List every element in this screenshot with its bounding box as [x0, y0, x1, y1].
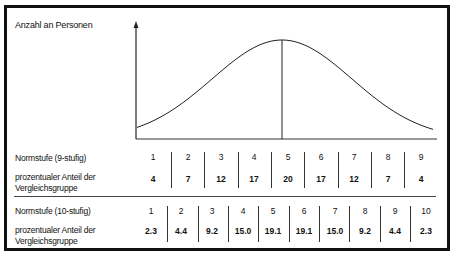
- stanine-level-1: 1: [138, 152, 168, 162]
- sten-column-separator: [410, 206, 411, 242]
- stanine-column-separator: [171, 152, 172, 188]
- sten-column-separator: [349, 206, 350, 242]
- sten-percent-7: 15.0: [320, 226, 350, 236]
- stanine-percent-3: 12: [206, 174, 236, 184]
- stanine-percent-8: 7: [373, 174, 403, 184]
- sten-row-label: Normstufe (10-stufig): [15, 206, 91, 217]
- sten-level-8: 8: [350, 206, 380, 216]
- stanine-level-9: 9: [406, 152, 436, 162]
- stanine-column-separator: [204, 152, 205, 188]
- sten-column-separator: [319, 206, 320, 242]
- sten-level-6: 6: [289, 206, 319, 216]
- stanine-percent-label-line1: prozentualer Anteil der: [15, 172, 95, 183]
- stanine-level-8: 8: [373, 152, 403, 162]
- sten-percent-9: 4.4: [380, 226, 410, 236]
- sten-level-4: 4: [228, 206, 258, 216]
- stanine-column-separator: [404, 152, 405, 188]
- sten-level-3: 3: [197, 206, 227, 216]
- stanine-level-6: 6: [306, 152, 336, 162]
- stanine-level-7: 7: [339, 152, 369, 162]
- sten-percent-label-line2: Vergleichsgruppe: [15, 236, 95, 247]
- stanine-percent-5: 20: [273, 174, 303, 184]
- sten-column-separator: [380, 206, 381, 242]
- sten-percent-8: 9.2: [350, 226, 380, 236]
- stanine-column-separator: [238, 152, 239, 188]
- stanine-column-separator: [304, 152, 305, 188]
- sten-column-separator: [167, 206, 168, 242]
- sten-level-2: 2: [166, 206, 196, 216]
- sten-percent-1: 2.3: [136, 226, 166, 236]
- normal-curve: [137, 40, 433, 129]
- figure-caption-cutoff: [10, 250, 210, 260]
- normal-distribution-chart: [0, 0, 453, 263]
- stanine-column-separator: [271, 152, 272, 188]
- stanine-level-5: 5: [273, 152, 303, 162]
- stanine-level-3: 3: [206, 152, 236, 162]
- sten-percent-label-line1: prozentualer Anteil der: [15, 225, 95, 236]
- sten-level-1: 1: [136, 206, 166, 216]
- stanine-percent-label: prozentualer Anteil der Vergleichsgruppe: [15, 172, 95, 194]
- stanine-column-separator: [371, 152, 372, 188]
- table-divider: [14, 196, 436, 197]
- sten-level-10: 10: [411, 206, 441, 216]
- sten-column-separator: [258, 206, 259, 242]
- sten-percent-4: 15.0: [228, 226, 258, 236]
- sten-percent-2: 4.4: [166, 226, 196, 236]
- sten-percent-6: 19.1: [289, 226, 319, 236]
- sten-level-7: 7: [320, 206, 350, 216]
- stanine-percent-4: 17: [239, 174, 269, 184]
- sten-column-separator: [228, 206, 229, 242]
- stanine-level-2: 2: [173, 152, 203, 162]
- stanine-percent-1: 4: [138, 174, 168, 184]
- y-axis-label: Anzahl an Personen: [15, 20, 92, 30]
- stanine-percent-2: 7: [173, 174, 203, 184]
- stanine-percent-label-line2: Vergleichsgruppe: [15, 183, 95, 194]
- stanine-column-separator: [338, 152, 339, 188]
- sten-level-5: 5: [258, 206, 288, 216]
- stanine-percent-9: 4: [406, 174, 436, 184]
- sten-percent-3: 9.2: [197, 226, 227, 236]
- stanine-level-4: 4: [239, 152, 269, 162]
- sten-column-separator: [289, 206, 290, 242]
- stanine-percent-6: 17: [306, 174, 336, 184]
- stanine-percent-7: 12: [339, 174, 369, 184]
- sten-column-separator: [198, 206, 199, 242]
- y-axis-arrow-icon: [134, 21, 139, 28]
- sten-percent-10: 2.3: [411, 226, 441, 236]
- sten-percent-5: 19.1: [258, 226, 288, 236]
- stanine-row-label: Normstufe (9-stufig): [15, 153, 86, 164]
- sten-percent-label: prozentualer Anteil der Vergleichsgruppe: [15, 225, 95, 247]
- sten-level-9: 9: [380, 206, 410, 216]
